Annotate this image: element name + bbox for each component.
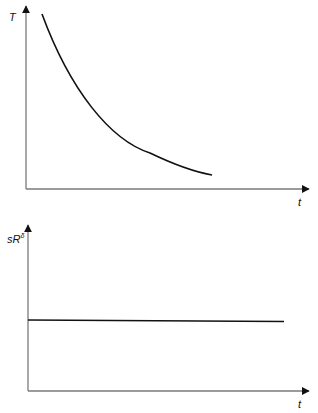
- bottom-chart: sRδ t: [7, 225, 309, 410]
- top-y-label: T: [9, 11, 17, 23]
- figure: T t sRδ t: [0, 0, 318, 413]
- bottom-x-label: t: [298, 398, 302, 410]
- top-x-label: t: [298, 196, 302, 208]
- constant-line: [28, 320, 284, 322]
- top-chart: T t: [9, 6, 309, 208]
- bottom-y-label-base: sR: [7, 233, 21, 245]
- bottom-y-label-sup: δ: [20, 232, 24, 239]
- bottom-y-label: sRδ: [7, 232, 24, 245]
- decay-curve: [42, 14, 212, 175]
